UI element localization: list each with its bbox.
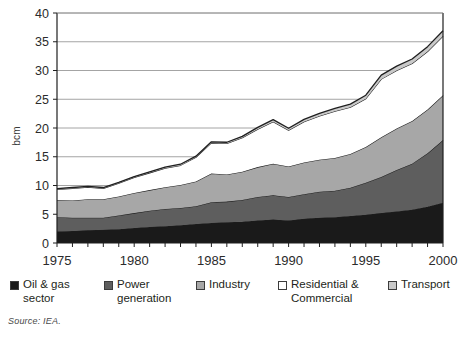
legend-item[interactable]: Power generation [104,278,194,305]
y-axis-label-text: bcm [0,121,37,151]
legend-item-label: Industry [209,278,250,292]
y-axis-label: bcm [2,116,32,156]
y-tick-label: 25 [35,93,49,107]
legend-item[interactable]: Oil & gas sector [10,278,105,305]
x-tick-label: 1995 [351,253,380,268]
y-tick-label: 35 [35,35,49,49]
source-note: Source: IEA. [8,316,61,326]
x-tick-label: 2000 [429,253,458,268]
legend-swatch-icon [104,281,113,290]
y-tick-label: 20 [35,122,49,136]
x-tick-label: 1985 [197,253,226,268]
plot-area: 0510152025303540197519801985199019952000… [0,0,466,275]
y-tick-label: 15 [35,150,49,164]
y-tick-label: 5 [42,208,49,222]
stacked-area-chart: 0510152025303540197519801985199019952000… [0,0,466,341]
chart-canvas: 0510152025303540197519801985199019952000 [0,0,466,275]
x-tick-label: 1990 [274,253,303,268]
y-tick-label: 0 [42,237,49,251]
legend-item[interactable]: Industry [196,278,276,292]
y-tick-label: 40 [35,7,49,21]
legend-swatch-icon [196,281,205,290]
legend-item[interactable]: Transport [388,278,466,292]
x-tick-label: 1975 [43,253,72,268]
legend-swatch-icon [278,281,287,290]
legend-item-label: Power generation [117,278,171,305]
y-tick-label: 10 [35,179,49,193]
legend-swatch-icon [10,281,19,290]
chart-legend: Oil & gas sectorPower generationIndustry… [0,278,466,318]
legend-item[interactable]: Residential & Commercial [278,278,383,305]
x-tick-label: 1980 [120,253,149,268]
legend-item-label: Oil & gas sector [23,278,70,305]
legend-swatch-icon [388,281,397,290]
legend-item-label: Transport [401,278,450,292]
y-tick-label: 30 [35,64,49,78]
legend-item-label: Residential & Commercial [291,278,359,305]
